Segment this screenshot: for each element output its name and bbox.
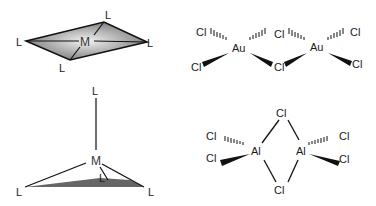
metal-label: M	[80, 35, 90, 49]
cl-label: Cl	[191, 61, 201, 73]
au2cl6-complex: Au Au Cl Cl Cl Cl Cl Cl	[191, 26, 362, 73]
metal-label: M	[91, 154, 101, 168]
ligand-label: L	[16, 186, 22, 198]
cl-label: Cl	[339, 153, 349, 165]
au-label: Au	[232, 42, 245, 54]
ligand-label: L	[92, 85, 98, 97]
ligand-label: L	[59, 62, 65, 74]
trigonal-pyramidal-complex: M L L L L	[16, 85, 154, 198]
cl-label: Cl	[196, 26, 206, 38]
cl-label: Cl	[276, 107, 286, 119]
al-label: Al	[296, 145, 306, 157]
ligand-label: L	[105, 9, 111, 21]
ligand-label: L	[16, 36, 22, 48]
cl-label: Cl	[352, 58, 362, 70]
ligand-label: L	[147, 37, 153, 49]
cl-label: Cl	[274, 61, 284, 73]
cl-label: Cl	[339, 130, 349, 142]
cl-label: Cl	[206, 152, 216, 164]
square-planar-complex: M L L L L	[16, 9, 153, 74]
au-label: Au	[310, 41, 323, 53]
cl-label: Cl	[274, 184, 284, 196]
structures-figure: M L L L L Au Au Cl Cl Cl C	[0, 0, 376, 206]
ligand-label: L	[148, 186, 154, 198]
cl-label: Cl	[274, 28, 284, 40]
cl-label: Cl	[350, 26, 360, 38]
ligand-label: L	[99, 172, 105, 184]
al2cl6-complex: Al Al Cl Cl Cl Cl Cl Cl	[206, 107, 349, 196]
cl-label: Cl	[206, 130, 216, 142]
al-label: Al	[251, 145, 261, 157]
